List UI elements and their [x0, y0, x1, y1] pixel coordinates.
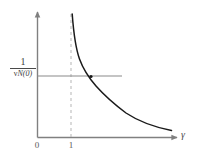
- figure-container: 1 νN(0) 0 1 γ: [0, 0, 200, 158]
- y-axis-value-label: 1 νN(0): [8, 57, 38, 78]
- x-tick-label-1: 1: [64, 141, 78, 150]
- curve-path: [72, 14, 171, 131]
- density-of-states-term: N(0): [17, 69, 32, 78]
- plot-canvas: [0, 0, 200, 158]
- fraction-denominator: νN(0): [10, 69, 36, 78]
- fraction-numerator: 1: [10, 57, 36, 68]
- x-tick-label-0: 0: [30, 141, 44, 150]
- x-axis-label: γ: [181, 130, 185, 140]
- intersection-point-marker: [89, 75, 92, 78]
